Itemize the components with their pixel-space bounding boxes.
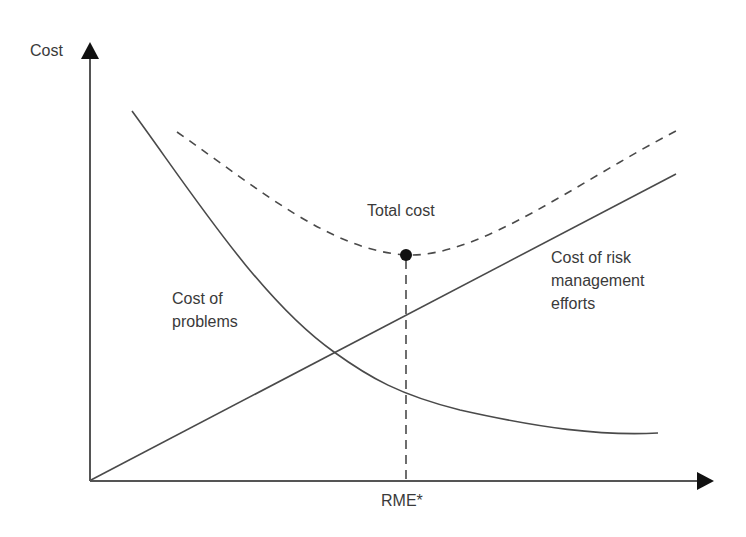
cost-tradeoff-diagram: Cost RME* Total cost Cost of problems Co… — [0, 0, 746, 537]
y-axis-label: Cost — [30, 42, 63, 59]
problems-label-line1: Cost of — [172, 290, 223, 307]
rm-label-line3: efforts — [551, 295, 595, 312]
problems-label-line2: problems — [172, 313, 238, 330]
rm-label-line2: management — [551, 272, 645, 289]
rm-label-line1: Cost of risk — [551, 249, 632, 266]
x-marker-label: RME* — [381, 492, 423, 509]
x-axis-arrow-icon — [697, 472, 714, 490]
total-cost-curve — [177, 130, 678, 255]
optimum-point-marker — [400, 249, 412, 261]
y-axis-arrow-icon — [81, 42, 99, 59]
total-cost-label: Total cost — [367, 202, 435, 219]
